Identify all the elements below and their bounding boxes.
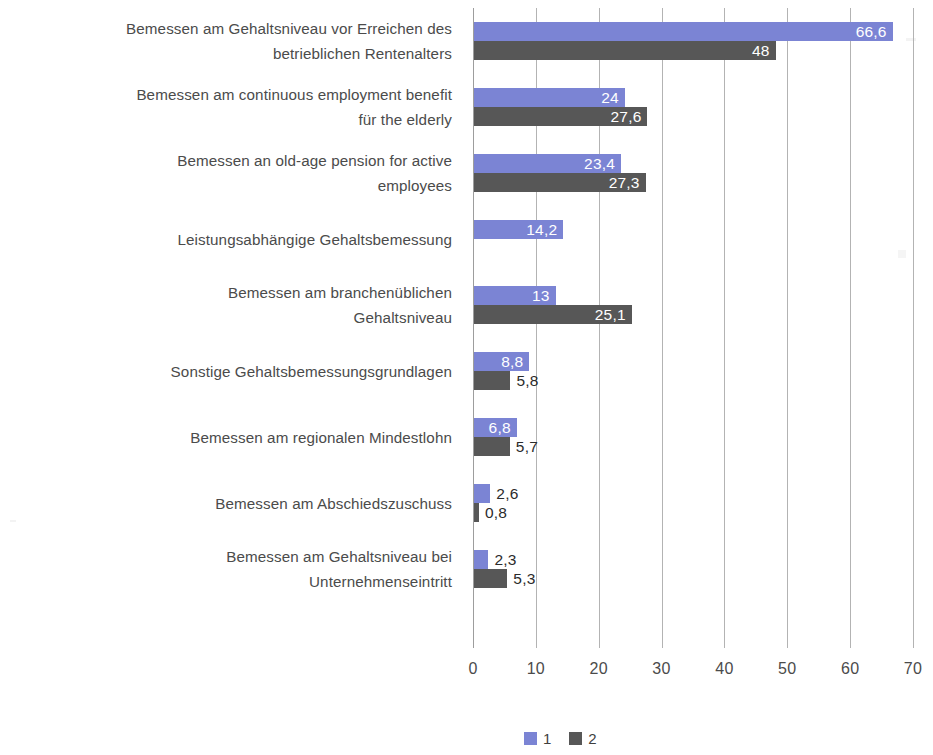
gridline-70 bbox=[913, 8, 914, 648]
bar-series-1-cat-8 bbox=[474, 550, 488, 569]
bar-series-2-cat-7 bbox=[474, 503, 479, 522]
x-tick-label-0: 0 bbox=[468, 660, 477, 678]
category-label-1: Bemessen am continuous employment benefi… bbox=[0, 82, 452, 132]
bar-series-2-cat-8 bbox=[474, 569, 507, 588]
bar-series-2-cat-5 bbox=[474, 371, 510, 390]
legend-item-2[interactable]: 2 bbox=[569, 730, 596, 747]
bar-value-label-series-2-cat-7: 0,8 bbox=[485, 503, 507, 522]
gridline-30 bbox=[662, 8, 663, 648]
bar-series-2-cat-6 bbox=[474, 437, 510, 456]
x-tick-label-40: 40 bbox=[715, 660, 733, 678]
category-label-4: Bemessen am branchenüblichen Gehaltsnive… bbox=[0, 280, 452, 330]
bar-value-label-series-1-cat-4: 13 bbox=[474, 286, 550, 305]
chart-legend: 12 bbox=[524, 728, 597, 748]
x-tick-label-30: 30 bbox=[652, 660, 670, 678]
bar-series-1-cat-7 bbox=[474, 484, 490, 503]
category-label-0: Bemessen am Gehaltsniveau vor Erreichen … bbox=[0, 16, 452, 66]
bar-value-label-series-2-cat-6: 5,7 bbox=[516, 437, 538, 456]
x-tick-label-20: 20 bbox=[590, 660, 608, 678]
bar-value-label-series-1-cat-3: 14,2 bbox=[474, 220, 557, 239]
bar-value-label-series-1-cat-8: 2,3 bbox=[494, 550, 516, 569]
bar-value-label-series-1-cat-2: 23,4 bbox=[474, 154, 615, 173]
legend-swatch-icon-1 bbox=[524, 732, 537, 745]
category-label-5: Sonstige Gehaltsbemessungsgrundlagen bbox=[0, 359, 452, 384]
legend-item-1[interactable]: 1 bbox=[524, 730, 551, 747]
category-label-2: Bemessen an old-age pension for active e… bbox=[0, 148, 452, 198]
x-tick-label-10: 10 bbox=[527, 660, 545, 678]
category-axis-labels: Bemessen am Gehaltsniveau vor Erreichen … bbox=[0, 0, 462, 655]
category-label-6: Bemessen am regionalen Mindestlohn bbox=[0, 425, 452, 450]
bar-value-label-series-2-cat-1: 27,6 bbox=[474, 107, 641, 126]
category-label-7: Bemessen am Abschiedszuschuss bbox=[0, 491, 452, 516]
legend-swatch-icon-2 bbox=[569, 732, 582, 745]
gridline-40 bbox=[724, 8, 725, 648]
horizontal-bar-chart: Bemessen am Gehaltsniveau vor Erreichen … bbox=[0, 0, 933, 755]
bar-value-label-series-2-cat-4: 25,1 bbox=[474, 305, 626, 324]
bar-value-label-series-2-cat-8: 5,3 bbox=[513, 569, 535, 588]
x-tick-label-50: 50 bbox=[778, 660, 796, 678]
bar-value-label-series-2-cat-0: 48 bbox=[474, 41, 770, 60]
bar-value-label-series-1-cat-5: 8,8 bbox=[474, 352, 523, 371]
category-label-3: Leistungsabhängige Gehaltsbemessung bbox=[0, 227, 452, 252]
bar-value-label-series-2-cat-5: 5,8 bbox=[516, 371, 538, 390]
legend-label-2: 2 bbox=[588, 730, 596, 747]
legend-label-1: 1 bbox=[543, 730, 551, 747]
category-label-8: Bemessen am Gehaltsniveau bei Unternehme… bbox=[0, 544, 452, 594]
x-tick-label-70: 70 bbox=[904, 660, 922, 678]
bar-value-label-series-1-cat-7: 2,6 bbox=[496, 484, 518, 503]
x-tick-label-60: 60 bbox=[841, 660, 859, 678]
gridline-50 bbox=[787, 8, 788, 648]
bar-value-label-series-2-cat-2: 27,3 bbox=[474, 173, 640, 192]
bar-value-label-series-1-cat-1: 24 bbox=[474, 88, 619, 107]
plot-area: 66,6482427,623,427,314,21325,18,85,86,85… bbox=[473, 8, 913, 648]
gridline-60 bbox=[850, 8, 851, 648]
bar-value-label-series-1-cat-6: 6,8 bbox=[474, 418, 511, 437]
bar-value-label-series-1-cat-0: 66,6 bbox=[474, 22, 887, 41]
x-axis-ticks: 010203040506070 bbox=[473, 660, 933, 688]
